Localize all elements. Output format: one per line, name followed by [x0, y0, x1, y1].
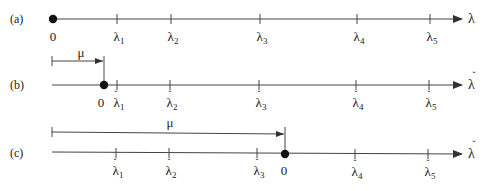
mu-label-c: μ: [167, 116, 174, 129]
tick-label-a-1: λ1: [114, 30, 125, 48]
tick-label-c-2: λ2: [166, 164, 177, 182]
zero-label-a: 0: [50, 30, 57, 43]
tick-label-b-2: λ2: [167, 96, 178, 114]
axis-symbol-b: λ: [468, 78, 475, 91]
tick-label-a-3: λ3: [257, 30, 268, 48]
axis-symbol-c: λ: [468, 147, 475, 160]
origin-dot-a: [49, 15, 57, 23]
tick-label-b-3: λ3: [256, 96, 267, 114]
number-line-a: [49, 14, 462, 24]
diagram-canvas: [0, 0, 492, 191]
number-line-c: [52, 127, 462, 159]
tick-label-a-4: λ4: [354, 30, 365, 48]
tick-label-a-2: λ2: [168, 30, 179, 48]
tick-label-c-4: λ4: [352, 165, 363, 183]
tick-label-b-1: λ1: [114, 96, 125, 114]
tick-label-c-3: λ3: [254, 164, 265, 182]
origin-dot-b: [100, 81, 108, 89]
mu-label-b: μ: [78, 46, 85, 59]
row-label-b: (b): [10, 79, 24, 92]
tick-label-b-4: λ4: [353, 96, 364, 114]
axis-symbol-a: λ: [468, 12, 475, 25]
mu-arrow-c: [52, 132, 284, 134]
row-label-a: (a): [10, 13, 23, 26]
zero-label-b: 0: [98, 96, 105, 109]
tick-label-c-5: λ5: [425, 165, 436, 183]
zero-label-c: 0: [281, 164, 288, 177]
row-label-c: (c): [10, 147, 23, 160]
tick-label-a-5: λ5: [427, 30, 438, 48]
tick-label-b-5: λ5: [426, 96, 437, 114]
tick-label-c-1: λ1: [113, 164, 124, 182]
origin-dot-c: [281, 150, 289, 158]
number-line-b: [52, 56, 462, 90]
